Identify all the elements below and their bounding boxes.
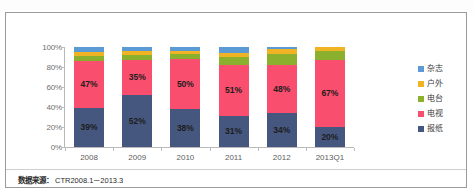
y-axis-tick-mark [61, 87, 64, 88]
bar-segment[interactable] [315, 51, 345, 60]
x-axis-labels: 200820092010201120122013Q1 [65, 153, 354, 167]
data-source-note: 数据来源： CTR2008.1－2013.3 [18, 174, 123, 185]
bar-group[interactable]: 31%51% [210, 47, 258, 147]
bar-segment[interactable] [267, 47, 297, 49]
bar-segment[interactable]: 31% [219, 116, 249, 147]
bar-segment-label: 51% [225, 86, 242, 95]
legend-item-label: 电视 [427, 110, 443, 118]
x-axis-tick-label: 2009 [113, 153, 161, 162]
bar-segment[interactable]: 51% [219, 65, 249, 116]
scan-margin [0, 0, 474, 11]
bar-group[interactable]: 39%47% [65, 47, 113, 147]
legend-color-swatch [418, 66, 424, 72]
bar-group[interactable]: 34%48% [258, 47, 306, 147]
bar-segment-label: 20% [321, 133, 338, 142]
stacked-bar[interactable]: 31%51% [219, 47, 249, 147]
stacked-bar[interactable]: 52%35% [122, 47, 152, 147]
y-axis-tick-label: 100% [42, 43, 62, 52]
y-axis-tick-mark [61, 147, 64, 148]
data-source-value: CTR2008.1－2013.3 [55, 174, 123, 185]
legend-item-label: 电台 [427, 95, 443, 103]
bar-segment-label: 67% [321, 89, 338, 98]
stacked-bar[interactable]: 34%48% [267, 47, 297, 147]
y-axis-tick-mark [61, 47, 64, 48]
x-axis-tick-label: 2013Q1 [306, 153, 354, 162]
bar-segment[interactable]: 20% [315, 127, 345, 147]
legend-item-label: 报纸 [427, 125, 443, 133]
legend-item[interactable]: 杂志 [418, 61, 466, 76]
x-axis-tick-mark [210, 148, 211, 151]
bar-segment[interactable] [267, 49, 297, 54]
x-axis-tick-mark [65, 148, 66, 151]
bar-segment[interactable] [74, 47, 104, 52]
bar-segment-label: 50% [177, 80, 194, 89]
bar-segment[interactable] [170, 47, 200, 51]
chart-canvas: 0%20%40%60%80%100% 39%47%52%35%38%50%31%… [6, 13, 466, 187]
y-axis-tick-mark [61, 127, 64, 128]
stacked-bar[interactable]: 20%67% [315, 47, 345, 147]
bar-segment-label: 31% [225, 127, 242, 136]
bar-segment[interactable] [122, 47, 152, 51]
bar-segment[interactable]: 50% [170, 59, 200, 109]
bar-segment[interactable] [74, 56, 104, 61]
legend-item[interactable]: 报纸 [418, 121, 466, 136]
y-axis-tick-label: 60% [47, 83, 62, 92]
stacked-bar[interactable]: 39%47% [74, 47, 104, 147]
legend-item[interactable]: 户外 [418, 76, 466, 91]
bar-segment[interactable]: 48% [267, 65, 297, 113]
x-axis-tick-mark [354, 148, 355, 151]
bar-segment[interactable] [219, 53, 249, 57]
stacked-bar[interactable]: 38%50% [170, 47, 200, 147]
chart-frame: 0%20%40%60%80%100% 39%47%52%35%38%50%31%… [5, 12, 467, 188]
x-axis-tick-mark [113, 148, 114, 151]
bar-segment[interactable] [170, 51, 200, 54]
bar-group[interactable]: 38%50% [161, 47, 209, 147]
y-axis-tick-mark [61, 67, 64, 68]
bar-group[interactable]: 52%35% [113, 47, 161, 147]
bar-segment[interactable] [74, 52, 104, 56]
bar-segment-label: 38% [177, 124, 194, 133]
bar-segment[interactable]: 38% [170, 109, 200, 147]
bar-segment[interactable]: 52% [122, 95, 152, 147]
y-axis-tick-label: 80% [47, 63, 62, 72]
y-axis-tick-label: 40% [47, 103, 62, 112]
legend-item[interactable]: 电台 [418, 91, 466, 106]
legend-item[interactable]: 电视 [418, 106, 466, 121]
bar-segment[interactable] [122, 55, 152, 60]
bar-segment[interactable] [219, 47, 249, 53]
y-axis-tick-mark [61, 107, 64, 108]
x-axis-tick-label: 2008 [65, 153, 113, 162]
x-axis-tick-mark [306, 148, 307, 151]
bar-group[interactable]: 20%67% [306, 47, 354, 147]
footer-divider [6, 169, 466, 170]
legend-color-swatch [418, 81, 424, 87]
legend-item-label: 户外 [427, 80, 443, 88]
legend-color-swatch [418, 126, 424, 132]
bar-segment-label: 39% [81, 123, 98, 132]
bar-segment[interactable]: 35% [122, 60, 152, 95]
bar-segment[interactable]: 39% [74, 108, 104, 147]
x-axis-tick-label: 2012 [258, 153, 306, 162]
bar-segment-label: 35% [129, 73, 146, 82]
bar-segment[interactable] [122, 51, 152, 55]
bar-series-area: 39%47%52%35%38%50%31%51%34%48%20%67% [65, 47, 354, 147]
legend-color-swatch [418, 96, 424, 102]
bar-segment[interactable] [170, 54, 200, 59]
y-axis-tick-label: 20% [47, 123, 62, 132]
legend-color-swatch [418, 111, 424, 117]
bar-segment-label: 34% [273, 126, 290, 135]
data-source-label: 数据来源： [18, 174, 53, 185]
bar-segment-label: 47% [81, 80, 98, 89]
x-axis-tick-mark [161, 148, 162, 151]
x-axis-tick-label: 2010 [161, 153, 209, 162]
bar-segment[interactable] [219, 57, 249, 65]
bar-segment[interactable]: 47% [74, 61, 104, 108]
y-axis-labels: 0%20%40%60%80%100% [28, 47, 62, 147]
bar-segment[interactable] [267, 54, 297, 65]
x-axis-tick-label: 2011 [210, 153, 258, 162]
bar-segment-label: 48% [273, 85, 290, 94]
bar-segment[interactable]: 67% [315, 60, 345, 127]
bar-segment-label: 52% [129, 117, 146, 126]
bar-segment[interactable]: 34% [267, 113, 297, 147]
bar-segment[interactable] [315, 47, 345, 51]
